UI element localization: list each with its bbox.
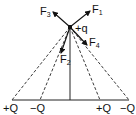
base-charge-label-4: −Q	[120, 102, 135, 114]
charge-label: +q	[75, 22, 88, 34]
force-label-f4: F4	[89, 36, 100, 49]
point-charge	[68, 25, 72, 29]
base-charge-label-1: +Q	[3, 102, 18, 114]
force-arrow-f2	[61, 27, 70, 53]
force-label-f3: F3	[40, 5, 51, 18]
force-arrow-f3	[53, 12, 70, 27]
base-charge-label-3: +Q	[96, 102, 111, 114]
force-label-f1: F1	[92, 3, 103, 16]
base-charge-label-2: −Q	[30, 102, 45, 114]
force-label-f2: F2	[60, 53, 71, 66]
dashed-line-4	[70, 27, 129, 100]
force-diagram: +q F1 F3 F4 F2 +Q −Q +Q −Q	[0, 0, 136, 115]
